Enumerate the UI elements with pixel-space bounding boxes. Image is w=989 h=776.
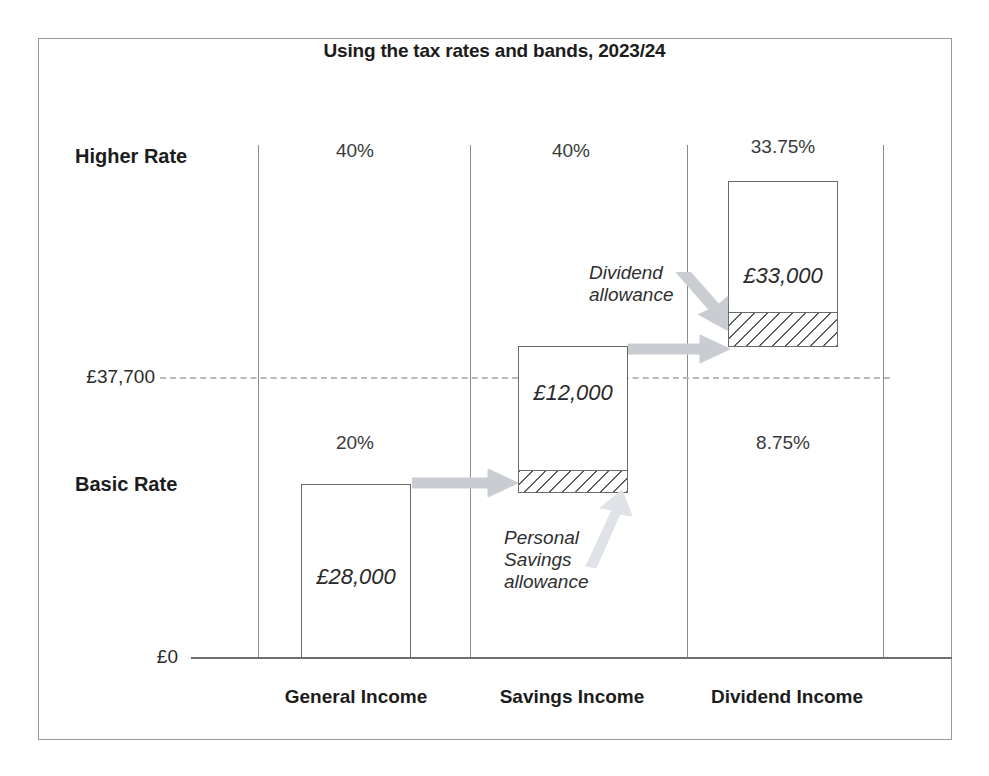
rate-general-basic: 20% <box>296 432 414 454</box>
bar-dividend-income: £33,000 <box>728 181 838 346</box>
flow-arrow-general-to-savings <box>412 466 524 500</box>
rate-dividend-higher: 33.75% <box>724 136 842 158</box>
rate-general-higher: 40% <box>296 140 414 162</box>
band-label-basic-rate: Basic Rate <box>75 473 177 496</box>
category-label-savings-income: Savings Income <box>482 686 662 708</box>
bar-value-general-income: £28,000 <box>302 564 410 590</box>
column-divider-2 <box>470 145 471 658</box>
column-divider-3 <box>687 145 688 658</box>
bar-general-income: £28,000 <box>301 484 411 658</box>
callout-personal-savings-allowance: Personal Savings allowance <box>504 527 589 593</box>
column-divider-4 <box>883 145 884 658</box>
axis-tick-zero: £0 <box>110 646 178 668</box>
axis-tick-threshold: £37,700 <box>60 366 155 388</box>
bar-value-dividend-income: £33,000 <box>729 263 837 289</box>
column-divider-1 <box>258 145 259 658</box>
category-label-dividend-income: Dividend Income <box>692 686 882 708</box>
chart-page: Using the tax rates and bands, 2023/24 H… <box>0 0 989 776</box>
bar-savings-income: £12,000 <box>518 346 628 492</box>
plot-area: Higher Rate Basic Rate £37,700 £0 40% 40… <box>0 0 989 776</box>
dividend-allowance-segment <box>728 312 838 347</box>
band-label-higher-rate: Higher Rate <box>75 145 187 168</box>
category-label-general-income: General Income <box>266 686 446 708</box>
personal-savings-allowance-segment <box>518 470 628 493</box>
rate-dividend-basic: 8.75% <box>724 432 842 454</box>
callout-dividend-allowance: Dividend allowance <box>589 262 674 306</box>
flow-arrow-savings-to-dividend <box>628 332 736 366</box>
bar-value-savings-income: £12,000 <box>519 380 627 406</box>
rate-savings-higher: 40% <box>512 140 630 162</box>
